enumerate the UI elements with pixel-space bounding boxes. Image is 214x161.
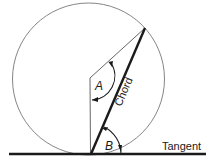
angle-a-label: A <box>94 79 103 93</box>
chord-label: Chord <box>112 76 135 108</box>
angle-b-label: B <box>105 139 113 153</box>
tangent-chord-diagram: A B Chord Tangent <box>0 0 214 161</box>
circle <box>13 3 165 155</box>
tangent-label: Tangent <box>162 140 201 152</box>
